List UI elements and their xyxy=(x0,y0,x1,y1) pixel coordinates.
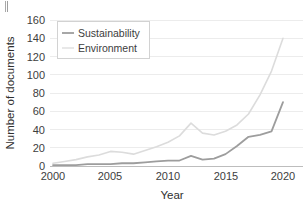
y-tick-label: 40 xyxy=(33,124,45,136)
y-tick-label: 160 xyxy=(27,14,45,26)
line-chart-svg: 160 140 120 100 80 60 40 20 0 2000 2005 … xyxy=(0,0,307,208)
x-tick-label: 2015 xyxy=(214,170,238,182)
y-axis-title: Number of documents xyxy=(4,36,16,149)
y-tick-label: 20 xyxy=(33,142,45,154)
x-tick-label: 2020 xyxy=(271,170,295,182)
y-tick-label: 120 xyxy=(27,51,45,63)
scan-artifact-mark xyxy=(5,1,8,12)
x-tick-label: 2005 xyxy=(98,170,122,182)
chart-legend: Sustainability Environment xyxy=(58,22,150,59)
chart-figure: 160 140 120 100 80 60 40 20 0 2000 2005 … xyxy=(0,0,307,208)
x-tick-label: 2010 xyxy=(156,170,180,182)
y-tick-labels: 160 140 120 100 80 60 40 20 0 xyxy=(27,14,45,172)
x-axis-title: Year xyxy=(160,189,183,201)
y-tick-label: 140 xyxy=(27,32,45,44)
y-tick-label: 100 xyxy=(27,69,45,81)
y-tick-label: 60 xyxy=(33,105,45,117)
legend-label-environment: Environment xyxy=(78,42,137,54)
x-tick-labels: 2000 2005 2010 2015 2020 xyxy=(41,170,295,182)
y-tick-label: 80 xyxy=(33,87,45,99)
legend-label-sustainability: Sustainability xyxy=(78,27,141,39)
x-tick-label: 2000 xyxy=(41,170,65,182)
